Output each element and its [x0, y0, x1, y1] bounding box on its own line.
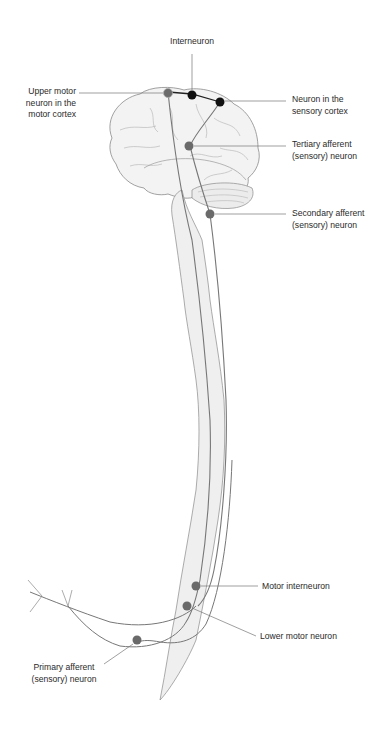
label-primary-afferent: Primary afferent (sensory) neuron — [24, 662, 104, 685]
spinal-cord — [160, 190, 225, 700]
primary-neuron — [133, 636, 142, 645]
tertiary-neuron — [185, 142, 194, 151]
secondary-neuron — [206, 210, 215, 219]
lower-motor-neuron — [183, 602, 192, 611]
brain — [110, 87, 259, 208]
interneuron-cell — [188, 91, 197, 100]
label-interneuron: Interneuron — [160, 36, 224, 48]
sensory-cortex-neuron — [216, 98, 225, 107]
upper-motor-neuron — [164, 89, 173, 98]
label-sensory-cortex: Neuron in the sensory cortex — [292, 94, 348, 117]
motor-interneuron-cell — [192, 582, 201, 591]
label-secondary-afferent: Secondary afferent (sensory) neuron — [292, 208, 364, 231]
label-motor-interneuron: Motor interneuron — [262, 581, 330, 593]
label-lower-motor-neuron: Lower motor neuron — [260, 631, 337, 643]
label-tertiary-afferent: Tertiary afferent (sensory) neuron — [292, 139, 357, 162]
label-upper-motor-neuron: Upper motor neuron in the motor cortex — [8, 86, 76, 121]
